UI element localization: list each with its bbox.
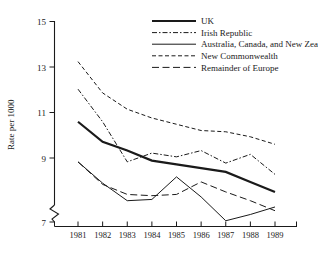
data-series-group <box>78 62 275 221</box>
series-line-new-commonwealth <box>78 62 275 145</box>
chart-legend: UKIrish RepublicAustralia, Canada, and N… <box>152 16 318 72</box>
y-tick-11: 11 <box>37 108 46 118</box>
y-tick-7: 7 <box>42 218 47 228</box>
y-axis-break-icon <box>50 205 59 222</box>
x-tick-label-1981: 1981 <box>70 230 87 240</box>
y-tick-13: 13 <box>37 63 47 73</box>
y-axis-ticks <box>50 22 55 223</box>
x-tick-label-1989: 1989 <box>267 230 284 240</box>
legend-label-4: New Commonwealth <box>201 51 278 61</box>
x-axis-ticks: 198119821983198419851986198719881989 <box>70 222 284 241</box>
x-tick-label-1983: 1983 <box>119 230 136 240</box>
chart-container: Rate per 1000 15 13 11 9 7 1981198219831… <box>0 0 318 254</box>
legend-label-5: Remainder of Europe <box>201 63 278 73</box>
series-line-australia-canada-and-new-zealand <box>78 162 275 221</box>
x-tick-label-1986: 1986 <box>193 230 210 240</box>
legend-label-1: UK <box>201 16 214 26</box>
legend-label-2: Irish Republic <box>201 28 252 38</box>
x-tick-label-1987: 1987 <box>217 230 234 240</box>
legend-label-3: Australia, Canada, and New Zealand, <box>201 39 318 49</box>
series-line-irish-republic <box>78 89 275 174</box>
x-tick-label-1985: 1985 <box>168 230 185 240</box>
y-tick-9: 9 <box>42 154 47 164</box>
x-tick-label-1984: 1984 <box>143 230 161 240</box>
y-tick-15: 15 <box>37 17 47 27</box>
x-tick-label-1988: 1988 <box>242 230 259 240</box>
y-axis-label: Rate per 1000 <box>6 99 16 150</box>
line-chart: Rate per 1000 15 13 11 9 7 1981198219831… <box>0 0 318 254</box>
x-tick-label-1982: 1982 <box>94 230 111 240</box>
